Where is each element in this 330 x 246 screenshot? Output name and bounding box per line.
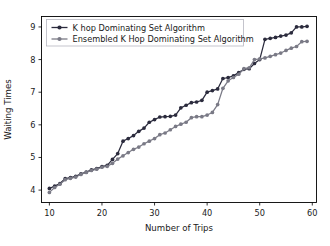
data-point-marker — [184, 103, 188, 107]
data-point-marker — [205, 113, 209, 117]
data-point-marker — [153, 118, 157, 122]
data-point-marker — [90, 169, 94, 173]
data-point-marker — [168, 128, 172, 132]
data-point-marker — [63, 178, 67, 182]
data-point-marker — [263, 56, 267, 60]
data-point-marker — [179, 106, 183, 110]
y-axis-title: Waiting Times — [3, 79, 13, 140]
data-point-marker — [69, 177, 73, 181]
data-point-marker — [111, 158, 115, 162]
data-point-marker — [58, 182, 62, 186]
data-point-marker — [263, 37, 267, 41]
data-point-marker — [184, 120, 188, 124]
data-point-marker — [289, 31, 293, 35]
data-point-marker — [174, 125, 178, 129]
y-tick-label: 6 — [30, 120, 35, 130]
data-point-marker — [289, 46, 293, 50]
y-tick-label: 5 — [30, 152, 35, 162]
data-point-marker — [79, 173, 83, 177]
data-point-marker — [158, 133, 162, 137]
data-point-marker — [242, 67, 246, 71]
data-point-marker — [163, 115, 167, 119]
data-point-marker — [121, 154, 125, 158]
data-point-marker — [111, 161, 115, 165]
plot-area: 102030405060 456789 — [30, 17, 317, 218]
chart-figure: 102030405060 456789 Number of Trips Wait… — [0, 0, 330, 246]
y-tick-label: 9 — [30, 22, 35, 32]
data-point-marker — [163, 131, 167, 135]
data-point-marker — [300, 40, 304, 44]
data-point-marker — [247, 66, 251, 70]
data-point-marker — [305, 24, 309, 28]
data-point-marker — [274, 36, 278, 40]
data-point-marker — [158, 115, 162, 119]
data-point-marker — [48, 191, 52, 195]
data-point-marker — [195, 100, 199, 104]
data-point-marker — [200, 99, 204, 103]
legend-entry-label: Ensembled K Hop Dominating Set Algorithm — [73, 34, 254, 44]
data-point-marker — [105, 164, 109, 168]
data-point-marker — [84, 171, 88, 175]
data-point-marker — [205, 90, 209, 94]
data-point-marker — [142, 142, 146, 146]
data-point-marker — [221, 77, 225, 81]
data-point-marker — [279, 51, 283, 55]
data-point-marker — [295, 25, 299, 29]
data-point-marker — [121, 139, 125, 143]
data-point-marker — [226, 76, 230, 80]
x-tick-label: 50 — [255, 208, 265, 218]
data-point-marker — [147, 120, 151, 124]
data-point-marker — [284, 33, 288, 37]
data-point-marker — [226, 79, 230, 83]
chart-legend[interactable]: K hop Dominating Set AlgorithmEnsembled … — [47, 20, 254, 47]
data-point-marker — [279, 34, 283, 38]
data-point-marker — [237, 72, 241, 76]
data-point-marker — [216, 87, 220, 91]
data-point-marker — [147, 139, 151, 143]
y-tick-label: 7 — [30, 87, 35, 97]
data-point-marker — [116, 152, 120, 156]
data-point-marker — [216, 103, 220, 107]
data-point-marker — [253, 58, 257, 62]
x-tick-label: 40 — [202, 208, 212, 218]
x-tick-label: 60 — [307, 208, 317, 218]
data-point-marker — [168, 115, 172, 119]
data-point-marker — [211, 111, 215, 115]
x-tick-label: 10 — [44, 208, 54, 218]
data-point-marker — [174, 113, 178, 117]
data-point-marker — [274, 53, 278, 57]
x-axis-title: Number of Trips — [145, 223, 214, 233]
data-point-marker — [305, 39, 309, 43]
legend-entry-label: K hop Dominating Set Algorithm — [73, 23, 205, 33]
legend-marker-icon — [57, 37, 61, 41]
data-point-marker — [179, 122, 183, 126]
data-point-marker — [74, 175, 78, 179]
data-point-marker — [221, 86, 225, 90]
data-point-marker — [200, 115, 204, 119]
data-point-marker — [232, 76, 236, 80]
data-point-marker — [300, 25, 304, 29]
data-point-marker — [268, 54, 272, 58]
y-tick-label: 4 — [30, 185, 35, 195]
data-point-marker — [137, 145, 141, 149]
data-point-marker — [284, 49, 288, 53]
data-point-marker — [137, 130, 141, 134]
data-point-marker — [295, 45, 299, 49]
y-tick-label: 8 — [30, 55, 35, 65]
data-point-marker — [100, 165, 104, 169]
data-point-marker — [126, 137, 130, 141]
data-point-marker — [258, 57, 262, 61]
data-point-marker — [116, 157, 120, 161]
data-point-marker — [190, 101, 194, 105]
data-point-marker — [48, 187, 52, 191]
data-point-marker — [126, 151, 130, 155]
legend-marker-icon — [57, 25, 61, 29]
line-chart-canvas: 102030405060 456789 Number of Trips Wait… — [0, 0, 330, 246]
data-point-marker — [153, 137, 157, 141]
data-point-marker — [132, 147, 136, 151]
x-tick-label: 30 — [149, 208, 159, 218]
data-point-marker — [211, 89, 215, 93]
data-point-marker — [53, 186, 57, 190]
data-point-marker — [132, 134, 136, 138]
data-point-marker — [195, 115, 199, 119]
